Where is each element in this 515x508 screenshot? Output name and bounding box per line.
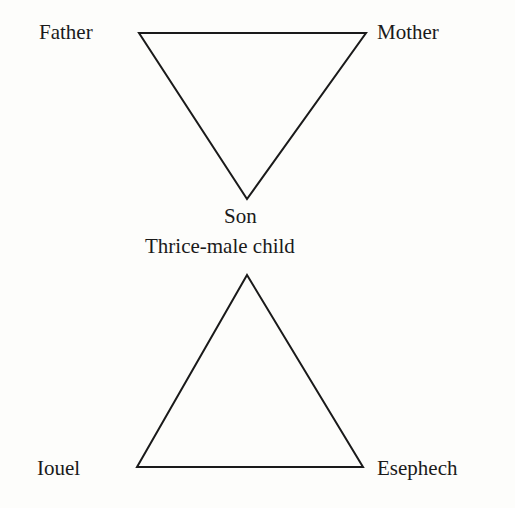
label-thrice-male-child: Thrice-male child bbox=[145, 236, 295, 257]
label-mother: Mother bbox=[377, 22, 439, 43]
label-iouel: Iouel bbox=[37, 458, 80, 479]
top-inverted-triangle bbox=[139, 33, 366, 199]
label-son: Son bbox=[224, 206, 257, 227]
label-father: Father bbox=[39, 22, 93, 43]
bottom-upright-triangle bbox=[137, 275, 363, 467]
label-esephech: Esephech bbox=[377, 458, 457, 479]
